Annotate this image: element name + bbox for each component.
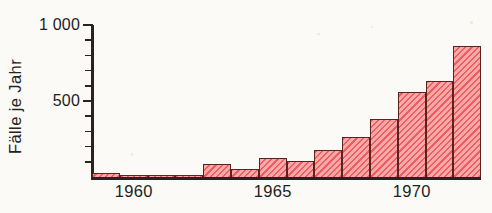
y-axis-minor-tick [85, 55, 92, 57]
y-axis-minor-tick [85, 146, 92, 148]
y-axis-minor-tick [85, 85, 92, 87]
y-axis-tick-label: 1 000 [2, 16, 80, 34]
bar [314, 150, 342, 177]
bar [398, 92, 426, 177]
bar [120, 175, 148, 177]
bar [148, 175, 176, 177]
y-axis-tick-label: 500 [2, 92, 80, 110]
bar [92, 173, 120, 177]
plot-area [91, 20, 481, 178]
y-axis-minor-tick [85, 131, 92, 133]
bar [175, 175, 203, 177]
x-axis-tick-label: 1965 [254, 182, 292, 201]
bar-chart: Fälle je Jahr 5001 000196019651970 [0, 0, 492, 213]
bar [203, 164, 231, 177]
x-axis-tick-label: 1970 [393, 182, 431, 201]
bar [453, 46, 481, 177]
y-axis-minor-tick [85, 70, 92, 72]
y-axis-minor-tick [85, 39, 92, 41]
y-axis-minor-tick [85, 161, 92, 163]
bar [370, 119, 398, 177]
y-axis-major-tick [83, 100, 93, 102]
y-axis-minor-tick [85, 115, 92, 117]
bar [259, 158, 287, 177]
bar [231, 169, 259, 177]
bar [287, 161, 315, 177]
y-axis-major-tick [83, 24, 93, 26]
x-axis-tick-label: 1960 [115, 182, 153, 201]
bar [426, 81, 454, 177]
bar [342, 137, 370, 177]
